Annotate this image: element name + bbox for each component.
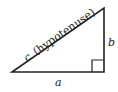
right-triangle-diagram: c(hypotenuse) a b — [0, 0, 118, 92]
side-b-label: b — [108, 36, 115, 49]
hypotenuse-label-group: c(hypotenuse) — [21, 6, 97, 65]
side-a-label: a — [55, 76, 62, 89]
hypotenuse-label: c(hypotenuse) — [21, 6, 97, 65]
right-angle-marker — [92, 60, 104, 72]
hypotenuse-text: (hypotenuse) — [30, 6, 97, 58]
